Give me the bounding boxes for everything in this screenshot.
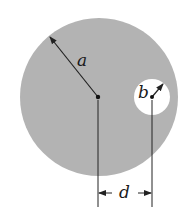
cross-section-diagram: a b d	[0, 0, 189, 221]
outer-center-dot	[96, 95, 100, 99]
hole-center-dot	[150, 95, 154, 99]
label-a: a	[77, 50, 87, 70]
label-d: d	[119, 182, 130, 202]
label-b: b	[138, 82, 149, 102]
